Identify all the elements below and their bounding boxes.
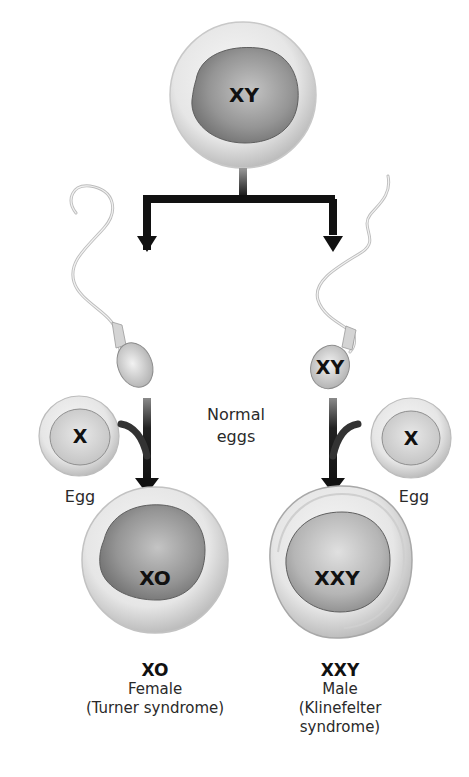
center-note-line1: Normal [196,405,276,424]
egg-left-label: X [60,425,100,447]
diagram-graphics [0,0,469,777]
zygote-xxy-label: XXY [302,566,372,590]
egg-left-caption: Egg [50,487,110,506]
zygote-xo [82,487,228,633]
egg-right-label: X [391,427,431,449]
result-left-line2: (Turner syndrome) [65,699,245,718]
egg-right-caption: Egg [384,487,444,506]
parent-cell-label: XY [218,83,270,107]
result-right-line1: Male [270,680,410,699]
nondisjunction-diagram: XY XY X Egg X Egg Normal eggs XO XXY XO … [0,0,469,777]
result-right-line3: syndrome) [270,718,410,737]
sperm-right-label: XY [305,356,355,378]
zygote-xxy [270,486,412,638]
fertilization-arrow-right [321,398,358,494]
result-left-title: XO [105,660,205,680]
center-note-line2: eggs [196,427,276,446]
fertilization-arrow-left [121,398,159,494]
result-right-title: XXY [290,660,390,680]
result-left-line1: Female [65,680,245,699]
result-right-line2: (Klinefelter [270,699,410,718]
branch-arrow [137,168,343,252]
zygote-xo-label: XO [125,566,185,590]
